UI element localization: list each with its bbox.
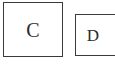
node-label-c: C — [26, 19, 39, 39]
node-box-d[interactable]: D — [75, 14, 115, 56]
node-label-d: D — [87, 26, 99, 43]
diagram-canvas: C D — [0, 0, 115, 64]
node-box-c[interactable]: C — [3, 2, 63, 57]
